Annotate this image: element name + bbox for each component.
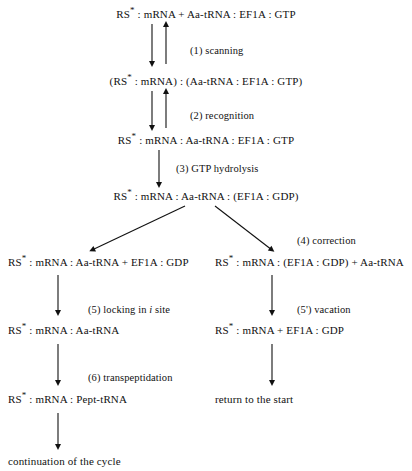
node-text: RS* : mRNA : (EF1A : GDP) + Aa-tRNA [215,256,404,268]
step-label-text: (5) locking in i site [88,304,170,315]
arrow-branch-right [215,206,272,250]
step-label-text: (5') vacation [297,304,351,315]
node-text: RS* : mRNA : Pept-tRNA [8,393,127,405]
step-label-1-scanning: (1) scanning [190,44,243,57]
step-label-text: (1) scanning [190,45,243,56]
node-text: RS* : mRNA + Aa-tRNA : EF1A : GTP [116,8,295,20]
node-initial-complex: RS* : mRNA + Aa-tRNA : EF1A : GTP [0,8,412,21]
node-correct-branch: RS* : mRNA : Aa-tRNA + EF1A : GDP [8,256,189,269]
step-label-5-locking-in-i-site: (5) locking in i site [88,303,170,316]
node-text: RS* : mRNA + EF1A : GDP [215,324,344,336]
node-text: continuation of the cycle [8,455,121,467]
node-peptidyl-complex: RS* : mRNA : Pept-tRNA [8,393,127,406]
step-label-2-recognition: (2) recognition [190,109,254,122]
step-label-6-transpeptidation: (6) transpeptidation [88,371,173,384]
node-continuation-of-cycle: continuation of the cycle [8,455,121,468]
node-scanning-complex: (RS* : mRNA) : (Aa-tRNA : EF1A : GTP) [0,75,412,88]
step-label-5-prime-vacation: (5') vacation [297,303,351,316]
node-text: RS* : mRNA : Aa-tRNA + EF1A : GDP [8,256,189,268]
node-text: (RS* : mRNA) : (Aa-tRNA : EF1A : GTP) [110,75,303,87]
node-text: RS* : mRNA : Aa-tRNA [8,324,119,336]
step-label-3-gtp-hydrolysis: (3) GTP hydrolysis [176,162,259,175]
node-return-to-start: return to the start [215,393,293,406]
node-text: RS* : mRNA : Aa-tRNA : (EF1A : GDP) [113,190,298,202]
node-hydrolysis-complex: RS* : mRNA : Aa-tRNA : (EF1A : GDP) [0,190,412,203]
step-label-text: (3) GTP hydrolysis [176,163,259,174]
step-label-4-correction: (4) correction [297,234,356,247]
arrow-branch-left [92,206,185,250]
step-label-text: (6) transpeptidation [88,372,173,383]
node-correction-branch: RS* : mRNA : (EF1A : GDP) + Aa-tRNA [215,256,404,269]
node-locked-complex: RS* : mRNA : Aa-tRNA [8,324,119,337]
node-text: RS* : mRNA : Aa-tRNA : EF1A : GTP [118,134,294,146]
node-recognition-complex: RS* : mRNA : Aa-tRNA : EF1A : GTP [0,134,412,147]
node-text: return to the start [215,393,293,405]
node-vacated-complex: RS* : mRNA + EF1A : GDP [215,324,344,337]
step-label-text: (4) correction [297,235,356,246]
step-label-text: (2) recognition [190,110,254,121]
pathway-diagram: RS* : mRNA + Aa-tRNA : EF1A : GTP (RS* :… [0,0,412,471]
